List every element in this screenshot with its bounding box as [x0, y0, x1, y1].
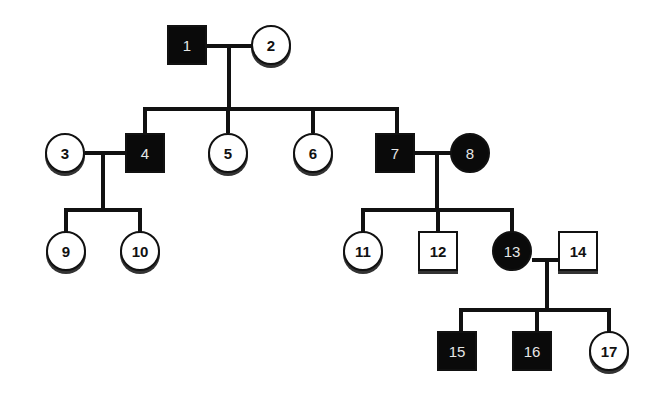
descent-line-3-4	[101, 151, 105, 210]
drop-4	[143, 107, 147, 133]
pedigree-chart: 1 2 3 4 5 6 7 8 9 10 11 12 13 14 15 16 1…	[0, 0, 671, 403]
mating-line-3-4	[85, 151, 127, 155]
drop-10	[138, 208, 142, 232]
descent-line-7-8	[435, 151, 439, 210]
drop-9	[64, 208, 68, 232]
individual-3-unaffected-female: 3	[45, 133, 85, 173]
individual-5-unaffected-female: 5	[208, 133, 248, 173]
individual-13-affected-female: 13	[492, 231, 532, 271]
individual-9-unaffected-female: 9	[46, 231, 86, 271]
sibship-line-3-4	[64, 208, 142, 212]
individual-12-unaffected-male: 12	[418, 231, 458, 271]
individual-14-unaffected-male: 14	[558, 231, 598, 271]
drop-11	[361, 208, 365, 232]
individual-16-affected-male: 16	[512, 331, 552, 371]
drop-16	[535, 308, 539, 332]
drop-5	[226, 107, 230, 133]
individual-17-unaffected-female: 17	[589, 331, 629, 371]
drop-13	[510, 208, 514, 232]
drop-7	[395, 107, 399, 133]
drop-6	[311, 107, 315, 133]
individual-6-unaffected-female: 6	[293, 133, 333, 173]
individual-2-unaffected-female: 2	[251, 25, 291, 65]
individual-11-unaffected-female: 11	[343, 231, 383, 271]
descent-line-13-14	[545, 258, 549, 310]
individual-15-affected-male: 15	[437, 331, 477, 371]
individual-4-affected-male: 4	[125, 133, 165, 173]
individual-7-affected-male: 7	[375, 133, 415, 173]
individual-10-unaffected-female: 10	[120, 231, 160, 271]
mating-line-7-8	[415, 151, 451, 155]
drop-12	[436, 208, 440, 232]
individual-1-affected-male: 1	[167, 25, 207, 65]
sibship-line-gen2	[143, 107, 399, 111]
descent-line-1-2	[227, 44, 231, 111]
drop-17	[607, 308, 611, 332]
drop-15	[459, 308, 463, 332]
individual-8-affected-female: 8	[450, 133, 490, 173]
